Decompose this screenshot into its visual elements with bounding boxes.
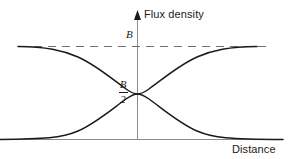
flux-density-figure: Flux density Distance B B 2: [0, 0, 290, 159]
decreasing-flux-curve: [18, 47, 283, 140]
figure-canvas: [0, 0, 290, 159]
asymptote-value-label: B: [126, 29, 133, 40]
x-axis-label: Distance: [232, 144, 276, 155]
y-axis-label: Flux density: [144, 9, 204, 20]
y-axis-arrowhead: [134, 10, 141, 20]
crossing-label-denominator: 2: [114, 94, 132, 106]
crossing-label-numerator: B: [114, 79, 132, 91]
crossing-value-label: B 2: [114, 79, 132, 105]
